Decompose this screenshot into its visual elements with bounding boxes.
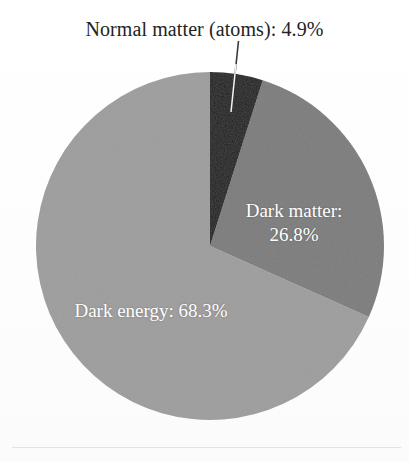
slice-label-dark-matter-line1: Dark matter: [246, 200, 343, 221]
slice-label-dark-matter-line2: 26.8% [224, 223, 364, 247]
slice-label-dark-energy: Dark energy: 68.3% [36, 299, 266, 323]
pie-chart-figure: Normal matter (atoms): 4.9% [0, 0, 409, 462]
slice-label-dark-matter: Dark matter: 26.8% [224, 199, 364, 247]
page-rule-divider [12, 447, 401, 448]
